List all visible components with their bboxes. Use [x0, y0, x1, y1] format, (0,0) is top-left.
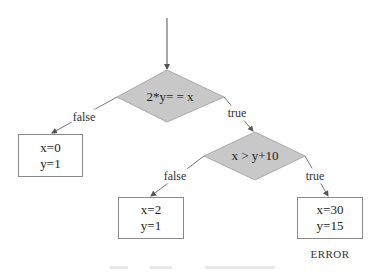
- box-1-line2: y=1: [40, 156, 60, 172]
- figure-caption-cutoff: [110, 266, 280, 272]
- edge-label-d2-false: false: [163, 169, 188, 184]
- edge-label-d2-true: true: [305, 169, 326, 184]
- box-1-line1: x=0: [40, 140, 60, 156]
- box-2-line2: y=1: [141, 218, 161, 234]
- decision-1-text: 2*y= = x: [146, 89, 193, 105]
- box-3-line1: x=30: [317, 202, 344, 218]
- result-box-2: x=2 y=1: [118, 197, 184, 239]
- decision-2-text: x > y+10: [231, 148, 278, 164]
- edge-label-d1-true: true: [227, 106, 248, 121]
- result-box-3: x=30 y=15: [297, 197, 363, 239]
- box-2-line1: x=2: [141, 202, 161, 218]
- edge-label-d1-false: false: [72, 110, 97, 125]
- error-note: ERROR: [310, 248, 349, 260]
- result-box-1: x=0 y=1: [18, 134, 83, 177]
- box-3-line2: y=15: [317, 218, 344, 234]
